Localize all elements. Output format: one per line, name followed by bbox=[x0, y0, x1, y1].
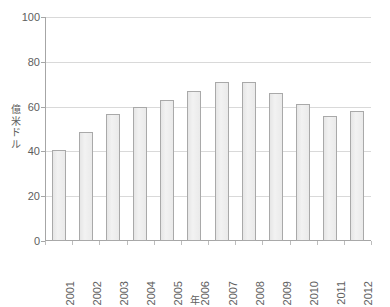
y-axis-tick-label: 0 bbox=[0, 235, 45, 247]
y-axis-tick-label: 60 bbox=[0, 101, 45, 113]
bar bbox=[323, 116, 337, 241]
y-axis-tickmark bbox=[41, 107, 45, 108]
bar bbox=[215, 82, 229, 241]
x-axis-title: 年 bbox=[0, 292, 390, 307]
x-axis-tick-labels: 2001200220032004200520062007200820092010… bbox=[45, 245, 371, 285]
x-axis-tickmark bbox=[371, 241, 372, 245]
y-axis-tickmark bbox=[41, 17, 45, 18]
y-axis-tick-label: 100 bbox=[0, 11, 45, 23]
y-axis-tick-label: 20 bbox=[0, 190, 45, 202]
bar bbox=[52, 150, 66, 241]
bars-layer bbox=[45, 17, 371, 241]
bar bbox=[160, 100, 174, 241]
bar bbox=[350, 111, 364, 241]
y-axis-tickmark bbox=[41, 151, 45, 152]
bar bbox=[242, 82, 256, 241]
bar bbox=[106, 114, 120, 241]
y-axis-tickmark bbox=[41, 196, 45, 197]
y-axis-tickmark bbox=[41, 62, 45, 63]
bar bbox=[187, 91, 201, 241]
y-axis-tick-label: 40 bbox=[0, 145, 45, 157]
y-axis-tick-labels: 020406080100 bbox=[0, 0, 45, 307]
bar bbox=[79, 132, 93, 241]
y-axis-tick-label: 80 bbox=[0, 56, 45, 68]
bar bbox=[296, 104, 310, 241]
bar-chart: 億米ドル 020406080100 2001200220032004200520… bbox=[0, 0, 390, 307]
plot-area bbox=[45, 17, 371, 241]
bar bbox=[133, 107, 147, 241]
bar bbox=[269, 93, 283, 241]
